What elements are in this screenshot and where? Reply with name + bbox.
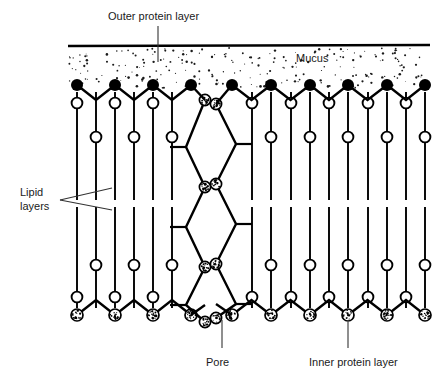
stipple-speck xyxy=(188,312,190,314)
stipple-dot xyxy=(296,67,297,68)
stipple-speck xyxy=(384,316,386,318)
stipple-speck xyxy=(216,182,218,184)
stipple-dot xyxy=(420,77,421,78)
stipple-dot xyxy=(381,76,383,78)
stipple-speck xyxy=(424,313,426,315)
lipid-head xyxy=(72,98,83,109)
stipple-dot xyxy=(370,82,372,84)
stipple-speck xyxy=(425,315,427,317)
stipple-dot xyxy=(395,57,397,59)
stipple-dot xyxy=(136,74,139,77)
stipple-dot xyxy=(298,81,299,82)
stipple-dot xyxy=(186,54,187,55)
stipple-dot xyxy=(250,56,252,58)
stipple-speck xyxy=(206,99,207,100)
stipple-dot xyxy=(215,83,218,86)
stipple-dot xyxy=(193,63,195,65)
stipple-speck xyxy=(213,262,214,263)
membrane-diagram: Outer protein layer Mucus Lipid layers P… xyxy=(0,0,448,380)
stipple-speck xyxy=(205,186,207,188)
stipple-dot xyxy=(382,59,384,61)
stipple-speck xyxy=(207,99,209,101)
stipple-dot xyxy=(240,86,242,88)
protein-head-solid xyxy=(147,79,159,91)
stipple-dot xyxy=(398,61,400,63)
stipple-dot xyxy=(327,85,330,88)
stipple-dot xyxy=(69,56,70,57)
stipple-speck xyxy=(215,264,217,266)
stipple-dot xyxy=(164,50,166,52)
stipple-dot xyxy=(415,76,417,78)
lipid-head xyxy=(343,260,354,271)
stipple-speck xyxy=(213,315,214,316)
stipple-dot xyxy=(342,56,344,58)
stipple-dot xyxy=(143,62,145,64)
stipple-dot xyxy=(320,79,322,81)
lipid-head xyxy=(129,260,140,271)
stipple-dot xyxy=(340,48,342,50)
lipid-head xyxy=(266,260,277,271)
stipple-dot xyxy=(421,74,423,76)
stipple-dot xyxy=(117,70,119,72)
stipple-dot xyxy=(125,65,126,66)
stipple-dot xyxy=(127,50,129,52)
protein-head-stippled xyxy=(109,309,121,321)
pore-left-chain-node xyxy=(199,261,210,272)
stipple-dot xyxy=(152,61,154,63)
label-lipid-layers-line2: layers xyxy=(20,200,50,212)
stipple-dot xyxy=(175,73,176,74)
stipple-dot xyxy=(116,50,118,52)
lipid-head xyxy=(382,260,393,271)
stipple-speck xyxy=(113,317,115,319)
stipple-dot xyxy=(198,83,200,85)
stipple-speck xyxy=(206,321,208,323)
stipple-dot xyxy=(160,74,161,75)
stipple-speck xyxy=(206,267,207,268)
stipple-speck xyxy=(388,314,390,316)
stipple-dot xyxy=(318,48,320,50)
stipple-speck xyxy=(205,318,207,320)
stipple-dot xyxy=(169,61,171,63)
stipple-dot xyxy=(295,75,297,77)
stipple-speck xyxy=(216,317,217,318)
stipple-speck xyxy=(424,318,425,319)
stipple-speck xyxy=(272,316,274,318)
stipple-dot xyxy=(228,47,230,49)
stipple-speck xyxy=(202,188,204,190)
stipple-dot xyxy=(274,49,276,51)
stipple-speck xyxy=(351,313,352,314)
stipple-speck xyxy=(151,310,153,312)
stipple-dot xyxy=(83,65,85,67)
stipple-speck xyxy=(205,323,206,324)
stipple-dot xyxy=(162,87,164,89)
stipple-speck xyxy=(386,312,388,314)
pore-right-top-join xyxy=(216,85,232,104)
stipple-speck xyxy=(116,312,117,313)
stipple-dot xyxy=(381,47,383,49)
stipple-speck xyxy=(205,189,207,191)
stipple-dot xyxy=(69,80,70,81)
stipple-dot xyxy=(395,48,397,50)
protein-head-stippled xyxy=(381,309,393,321)
stipple-speck xyxy=(215,262,217,264)
leader-lipid-lower xyxy=(60,200,112,210)
stipple-speck xyxy=(153,312,155,314)
stipple-dot xyxy=(154,51,156,53)
stipple-speck xyxy=(310,311,312,313)
pore-left-top-join xyxy=(191,85,205,100)
stipple-speck xyxy=(267,312,269,314)
stipple-dot xyxy=(218,82,219,83)
protein-head-stippled xyxy=(71,309,83,321)
stipple-dot xyxy=(121,50,122,51)
stipple-dot xyxy=(165,66,167,68)
stipple-dot xyxy=(333,53,335,55)
protein-head-solid xyxy=(109,79,121,91)
stipple-dot xyxy=(151,48,153,50)
stipple-dot xyxy=(299,79,301,81)
stipple-dot xyxy=(413,83,415,85)
stipple-dot xyxy=(274,57,276,59)
pore-right-chain-node xyxy=(210,258,221,269)
stipple-dot xyxy=(84,55,86,57)
stipple-speck xyxy=(148,314,150,316)
stipple-speck xyxy=(215,183,217,185)
